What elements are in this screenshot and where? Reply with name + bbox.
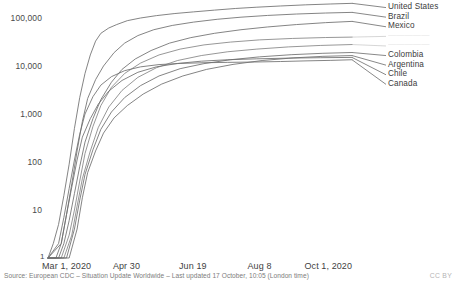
series-line-chile <box>48 57 352 258</box>
legend-swatch-group <box>352 3 386 84</box>
x-tick-apr-30: Apr 30 <box>113 261 140 271</box>
source-note: Source: European CDC – Situation Update … <box>4 272 309 279</box>
legend-item-colombia: Colombia <box>388 50 458 60</box>
legend-item-unlabeled-4: ————— <box>388 40 458 50</box>
legend-connector-unlabeled-4 <box>352 45 386 46</box>
license-label: CC BY <box>430 272 452 279</box>
legend-connector-mexico <box>352 21 386 26</box>
legend-item-united-states: United States <box>388 2 458 12</box>
legend-connector-united-states <box>352 3 386 7</box>
legend-item-brazil: Brazil <box>388 12 458 22</box>
legend-connector-unlabeled-3 <box>352 36 386 37</box>
x-tick-mar-1-2020: Mar 1, 2020 <box>42 261 91 271</box>
series-line-canada <box>48 60 352 258</box>
y-tick-10000: 10,000 <box>0 61 42 71</box>
x-tick-jun-19: Jun 19 <box>179 261 207 271</box>
x-tick-oct-1-2020: Oct 1, 2020 <box>304 261 352 271</box>
legend-item-canada: Canada <box>388 79 458 89</box>
legend-connector-colombia <box>352 53 386 56</box>
chart-legend: United StatesBrazilMexico——————————Colom… <box>388 2 458 88</box>
legend-item-unlabeled-3: ————— <box>388 31 458 41</box>
series-line-brazil <box>48 12 352 258</box>
series-line-united-states <box>48 3 352 258</box>
y-tick-100: 100 <box>0 157 42 167</box>
covid-cumulative-cases-chart: 101001,00010,000100,000 Mar 1, 2020Apr 3… <box>0 0 458 287</box>
y-axis-origin-label: 1 <box>40 252 44 261</box>
legend-connector-brazil <box>352 12 386 17</box>
series-line-argentina <box>48 56 352 258</box>
legend-item-chile: Chile <box>388 69 458 79</box>
legend-item-mexico: Mexico <box>388 21 458 31</box>
legend-item-argentina: Argentina <box>388 60 458 70</box>
series-line-unlabeled-4 <box>48 45 352 258</box>
y-tick-10: 10 <box>0 205 42 215</box>
series-group <box>48 3 352 258</box>
y-tick-100000: 100,000 <box>0 13 42 23</box>
y-tick-1000: 1,000 <box>0 109 42 119</box>
x-tick-aug-8: Aug 8 <box>247 261 271 271</box>
